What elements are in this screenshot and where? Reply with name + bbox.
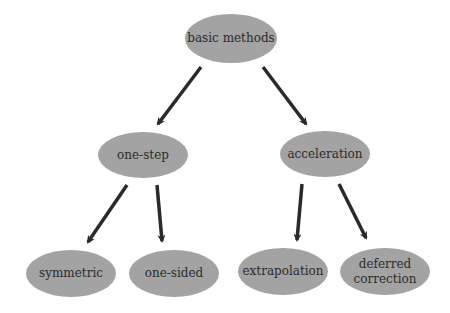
node-label: basic methods <box>187 31 274 46</box>
arrow-root-to-acceleration <box>263 67 306 124</box>
node-label: one-sided <box>145 266 204 281</box>
node-label: one-step <box>117 148 169 163</box>
node-label: deferred correction <box>350 257 420 287</box>
node-label: acceleration <box>287 147 362 162</box>
node-symmetric: symmetric <box>26 250 116 297</box>
arrow-root-to-one-step <box>158 67 201 124</box>
node-one-step: one-step <box>98 132 188 178</box>
node-deferred-correction: deferred correction <box>340 248 430 295</box>
arrow-one-step-to-one-sided <box>157 185 162 241</box>
node-one-sided: one-sided <box>129 250 219 297</box>
arrow-acceleration-to-extrapolation <box>297 184 302 240</box>
arrow-acceleration-to-deferred-correction <box>339 184 366 238</box>
node-label: symmetric <box>39 266 103 281</box>
node-acceleration: acceleration <box>280 131 370 177</box>
node-label: extrapolation <box>242 264 323 279</box>
arrow-one-step-to-symmetric <box>88 185 127 242</box>
node-basic-methods: basic methods <box>185 14 277 63</box>
node-extrapolation: extrapolation <box>238 248 328 295</box>
